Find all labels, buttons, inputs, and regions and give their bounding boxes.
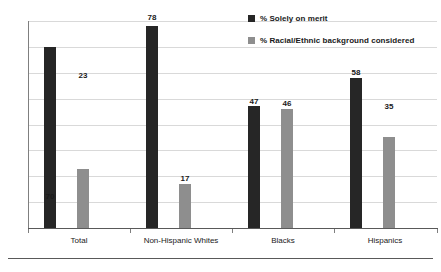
bar-blacks-racial (281, 109, 293, 228)
legend-label-racial: % Racial/Ethnic background considered (260, 36, 414, 45)
dark-square-swatch-icon (248, 15, 255, 22)
bar-label-blacks-racial: 46 (275, 99, 299, 108)
bar-label-total-merit: 70 (38, 192, 62, 201)
bar-label-total-racial: 23 (71, 71, 95, 80)
axis-tick-3 (232, 229, 233, 233)
bar-nonhispanicwhites-merit (146, 26, 158, 228)
gridline-50 (28, 99, 437, 100)
axis-tick-2 (130, 229, 131, 233)
bar-chart-figure: 70 23 78 17 47 46 58 35 Total Non-Hispan… (0, 0, 441, 272)
bar-label-hispanics-merit: 58 (344, 68, 368, 77)
gridline-40 (28, 125, 437, 126)
bar-hispanics-merit (350, 78, 362, 228)
gray-square-swatch-icon (248, 37, 255, 44)
x-axis-label-blacks: Blacks (233, 236, 333, 246)
legend-entry-merit: % Solely on merit (248, 14, 438, 22)
bar-label-nonhispanicwhites-merit: 78 (140, 13, 164, 22)
legend-entry-racial: % Racial/Ethnic background considered (248, 36, 438, 44)
gridline-20 (28, 176, 437, 177)
axis-tick-1 (28, 229, 29, 233)
x-axis-label-hispanics: Hispanics (335, 236, 435, 246)
legend-label-merit: % Solely on merit (260, 14, 328, 23)
bar-nonhispanicwhites-racial (179, 184, 191, 228)
gridline-30 (28, 150, 437, 151)
bar-total-racial (77, 169, 89, 229)
bar-label-blacks-merit: 47 (242, 97, 266, 106)
x-axis-label-total: Total (29, 236, 129, 246)
bottom-divider-rule (8, 258, 433, 259)
x-axis-line (28, 228, 438, 229)
bar-hispanics-racial (383, 137, 395, 228)
bar-label-hispanics-racial: 35 (377, 102, 401, 111)
chart-legend: % Solely on merit % Racial/Ethnic backgr… (248, 14, 438, 58)
y-axis-line (28, 21, 29, 229)
bar-label-nonhispanicwhites-racial: 17 (173, 174, 197, 183)
axis-tick-5 (437, 229, 438, 233)
axis-tick-4 (334, 229, 335, 233)
x-axis-label-non-hispanic-whites: Non-Hispanic Whites (131, 236, 231, 246)
gridline-10 (28, 202, 437, 203)
bar-blacks-merit (248, 106, 260, 228)
